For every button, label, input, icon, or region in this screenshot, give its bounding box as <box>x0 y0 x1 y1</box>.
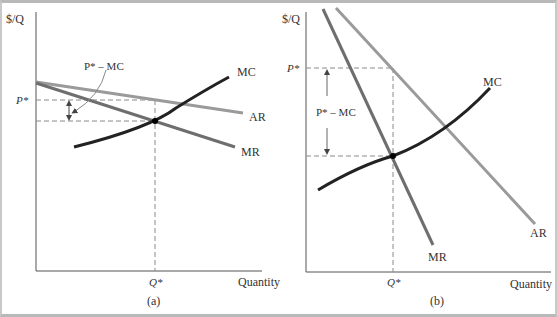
price-label: P* <box>15 94 29 106</box>
mr-label: MR <box>428 250 447 264</box>
mr-curve <box>36 83 235 147</box>
mr-curve <box>323 9 433 245</box>
mr-label: MR <box>241 145 260 159</box>
markup-diagram: $/Q P* P* – MC MC AR MR Q* Quantity (a) … <box>0 0 557 317</box>
panel-b: $/Q P* P* – MC MC AR MR Q* Quantity (b) <box>282 8 552 308</box>
equilibrium-point <box>152 118 158 124</box>
markup-label: P* – MC <box>316 106 356 118</box>
ar-label: AR <box>530 226 547 240</box>
mc-label: MC <box>237 65 256 79</box>
ar-curve <box>336 8 535 224</box>
quantity-label: Q* <box>149 276 163 288</box>
equilibrium-point <box>390 153 396 159</box>
panel-caption: (a) <box>147 294 160 308</box>
quantity-label: Q* <box>387 276 401 288</box>
x-axis-label: Quantity <box>510 277 552 291</box>
mc-curve <box>318 88 490 190</box>
y-axis-label: $/Q <box>6 12 24 26</box>
ar-label: AR <box>249 110 266 124</box>
x-axis-label: Quantity <box>238 275 280 289</box>
y-axis-label: $/Q <box>282 12 300 26</box>
panel-a: $/Q P* P* – MC MC AR MR Q* Quantity (a) <box>6 12 280 308</box>
price-label: P* <box>286 62 300 74</box>
panel-caption: (b) <box>430 294 444 308</box>
mc-label: MC <box>483 75 502 89</box>
markup-label: P* – MC <box>84 60 124 72</box>
